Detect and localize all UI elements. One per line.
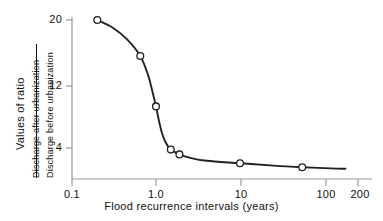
data-point <box>176 151 183 158</box>
data-point <box>237 160 244 167</box>
x-axis-title: Flood recurrence intervals (years) <box>0 200 383 212</box>
y-axis-fraction-denominator: Discharge before urbanization <box>45 52 55 178</box>
y-tick-label-20: 20 <box>38 13 62 25</box>
data-point <box>153 103 160 110</box>
x-tick-label-1.0: 1.0 <box>140 188 172 200</box>
chart-figure: 20 12 4 0.1 1.0 10 100 200 Flood recurre… <box>0 0 383 221</box>
data-point <box>167 146 174 153</box>
data-curve <box>97 20 345 169</box>
data-point <box>299 164 306 171</box>
x-tick-label-0.1: 0.1 <box>56 188 88 200</box>
x-tick-label-10: 10 <box>225 188 257 200</box>
data-point <box>137 53 144 60</box>
y-axis-fraction-bar <box>36 44 37 178</box>
data-point <box>94 17 101 24</box>
data-markers <box>94 17 306 171</box>
x-tick-label-100: 100 <box>310 188 342 200</box>
y-axis-title: Values of ratio <box>14 77 26 150</box>
x-tick-label-200: 200 <box>344 188 376 200</box>
